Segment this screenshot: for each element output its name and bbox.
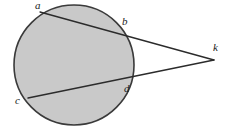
- point-label-d: d: [124, 83, 130, 94]
- geometry-figure: a b c d k: [0, 0, 233, 130]
- point-label-k: k: [213, 42, 218, 53]
- point-label-c: c: [15, 95, 20, 106]
- shaded-circle: [14, 5, 134, 125]
- point-label-a: a: [35, 0, 41, 11]
- point-label-b: b: [122, 16, 128, 27]
- circle-secant-diagram: [0, 0, 233, 130]
